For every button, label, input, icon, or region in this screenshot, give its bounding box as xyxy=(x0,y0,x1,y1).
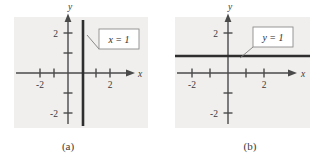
y-axis-label-a: y xyxy=(67,2,73,12)
figure-container: -2 2 2 -2 x y x = 1 (a) xyxy=(0,0,320,167)
y-axis-arrow-b xyxy=(225,14,232,23)
y-axis-label-b: y xyxy=(227,2,233,12)
x-axis-label-a: x xyxy=(137,69,143,79)
y-ticklabel-minus2-b: -2 xyxy=(210,109,218,119)
callout-label-a: x = 1 xyxy=(107,34,129,45)
caption-a: (a) xyxy=(0,140,148,152)
y-ticklabel-2-b: 2 xyxy=(213,29,218,39)
y-axis-arrow-a xyxy=(65,14,72,23)
x-ticklabel-2-b: 2 xyxy=(262,80,267,90)
callout-leader-a xyxy=(87,35,99,49)
x-ticklabel-minus2-a: -2 xyxy=(36,80,44,90)
panel-b: -2 2 2 -2 x y y = 1 (b) xyxy=(160,0,320,167)
callout-label-b: y = 1 xyxy=(261,32,283,43)
x-ticklabel-minus2-b: -2 xyxy=(188,80,196,90)
panel-a: -2 2 2 -2 x y x = 1 (a) xyxy=(0,0,160,167)
caption-b: (b) xyxy=(170,140,320,152)
x-axis-arrow-b xyxy=(288,70,297,77)
y-ticklabel-minus2-a: -2 xyxy=(50,109,58,119)
x-axis-label-b: x xyxy=(300,69,306,79)
y-ticklabel-2-a: 2 xyxy=(53,29,58,39)
x-axis-arrow-a xyxy=(126,70,135,77)
x-ticklabel-2-a: 2 xyxy=(108,80,113,90)
